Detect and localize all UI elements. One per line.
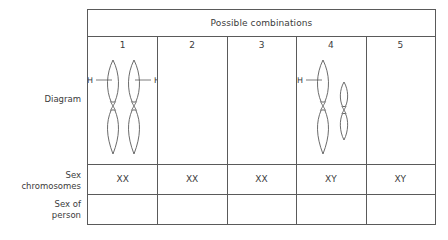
- table-column-4: 4HXY: [296, 36, 365, 224]
- diagram-cell[interactable]: [227, 54, 296, 164]
- diagram-cell[interactable]: HH: [88, 54, 157, 164]
- diagram-cell[interactable]: H: [296, 54, 365, 164]
- sex-chromosomes-cell[interactable]: XY: [366, 164, 435, 194]
- diagram-cell[interactable]: [157, 54, 226, 164]
- column-number: 5: [366, 40, 435, 50]
- sex-of-person-cell[interactable]: [157, 194, 226, 224]
- sex-chromosomes-cell[interactable]: XY: [296, 164, 365, 194]
- row-label-sex-chromosomes: Sex chromosomes: [21, 170, 81, 192]
- table-column-5: 5XY: [366, 36, 435, 224]
- column-number: 2: [157, 40, 226, 50]
- sex-of-person-cell[interactable]: [227, 194, 296, 224]
- column-number: 3: [227, 40, 296, 50]
- table-column-2: 2XX: [157, 36, 226, 224]
- sex-of-person-cell[interactable]: [296, 194, 365, 224]
- sex-of-person-cell[interactable]: [88, 194, 157, 224]
- row-label-sex-of-person: Sex of person: [52, 199, 81, 221]
- column-number: 1: [88, 40, 157, 50]
- table-column-1: 1HHXX: [88, 36, 157, 224]
- table-header-title: Possible combinations: [211, 18, 313, 28]
- row-label-column: Diagram Sex chromosomes Sex of person: [0, 0, 87, 240]
- row-label-diagram: Diagram: [45, 94, 82, 105]
- svg-text:H: H: [88, 76, 93, 85]
- svg-text:H: H: [297, 76, 303, 85]
- diagram-cell[interactable]: [366, 54, 435, 164]
- table-column-3: 3XX: [227, 36, 296, 224]
- combinations-table: Possible combinations 1HHXX2XX3XX4HXY5XY: [87, 9, 436, 225]
- sex-of-person-cell[interactable]: [366, 194, 435, 224]
- sex-chromosomes-cell[interactable]: XX: [88, 164, 157, 194]
- table-header-band: Possible combinations: [88, 10, 435, 36]
- sex-chromosomes-cell[interactable]: XX: [227, 164, 296, 194]
- column-number: 4: [296, 40, 365, 50]
- worksheet-figure: Diagram Sex chromosomes Sex of person Po…: [0, 0, 448, 240]
- sex-chromosomes-cell[interactable]: XX: [157, 164, 226, 194]
